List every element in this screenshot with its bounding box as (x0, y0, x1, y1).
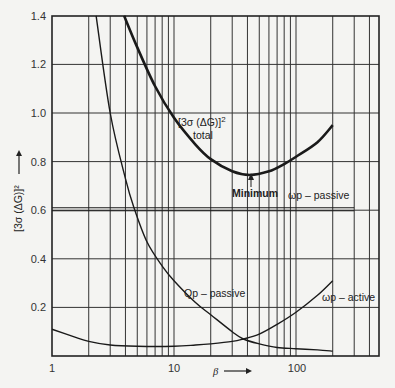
grid-lines (52, 16, 379, 356)
y-axis-text: [3σ (ΔG)]² (12, 185, 24, 232)
x-axis-beta: β (212, 366, 219, 377)
total-curve-sublabel: total (193, 129, 213, 141)
x-tick-1: 1 (49, 362, 55, 374)
x-tick-100: 100 (288, 362, 306, 374)
x-tick-10: 10 (168, 362, 180, 374)
y-tick-labels: 1.4 1.2 1.0 0.8 0.6 0.4 0.2 (31, 10, 46, 313)
data-curves (52, 16, 354, 351)
x-axis-arrowhead-icon (246, 368, 252, 374)
y-axis-label: [3σ (ΔG)]² (12, 150, 24, 232)
y-tick-0.6: 0.6 (31, 204, 46, 216)
qp-passive-label: Qp – passive (184, 287, 245, 299)
qp-passive-curve (96, 16, 333, 351)
x-axis-label: β (212, 366, 252, 377)
y-tick-0.8: 0.8 (31, 156, 46, 168)
minimum-label: Minimum (232, 187, 278, 199)
total-curve-label: [3σ (ΔG)]2 (178, 115, 226, 128)
y-tick-1.2: 1.2 (31, 58, 46, 70)
y-tick-0.2: 0.2 (31, 301, 46, 313)
y-axis-arrowhead-icon (16, 150, 22, 156)
y-tick-1.0: 1.0 (31, 107, 46, 119)
chart-plot: 1.4 1.2 1.0 0.8 0.6 0.4 0.2 1 10 100 β [… (0, 0, 395, 388)
y-tick-0.4: 0.4 (31, 253, 46, 265)
wp-active-label: ωp – active (322, 291, 375, 303)
wp-passive-label: ωp – passive (288, 189, 349, 201)
y-tick-1.4: 1.4 (31, 10, 46, 22)
x-tick-labels: 1 10 100 (49, 362, 306, 374)
plot-frame (52, 16, 379, 356)
